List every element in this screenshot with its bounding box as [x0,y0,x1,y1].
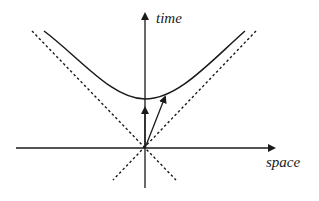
light-cone-left-line [32,31,176,180]
space-axis-label: space [266,155,300,170]
time-axis-label: time [156,11,182,26]
boosted-vector-arrow [145,97,165,148]
light-cone-right-line [113,31,256,180]
diagram-svg [0,0,319,201]
spacetime-diagram: time space [0,0,319,201]
